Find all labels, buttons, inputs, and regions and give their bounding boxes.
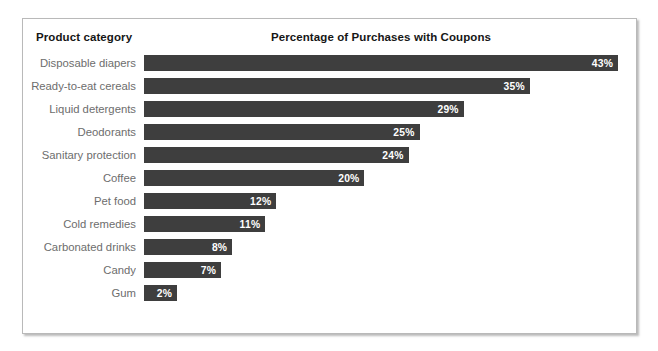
- bar[interactable]: 12%: [144, 193, 276, 209]
- bar-value-label: 12%: [250, 196, 276, 207]
- bar-value-label: 20%: [338, 173, 364, 184]
- bar[interactable]: 43%: [144, 55, 618, 71]
- bar-value-label: 11%: [240, 219, 266, 230]
- bar-track: 8%: [144, 239, 636, 255]
- category-label: Coffee: [23, 170, 136, 186]
- category-label: Ready-to-eat cereals: [23, 78, 136, 94]
- bar-value-label: 29%: [437, 104, 463, 115]
- bar-track: 2%: [144, 285, 636, 301]
- category-label: Carbonated drinks: [23, 239, 136, 255]
- bar-track: 29%: [144, 101, 636, 117]
- bar[interactable]: 8%: [144, 239, 232, 255]
- bar-row: Cold remedies11%: [23, 216, 636, 239]
- bar-value-label: 35%: [504, 81, 530, 92]
- bar-row: Coffee20%: [23, 170, 636, 193]
- bar-track: 25%: [144, 124, 636, 140]
- bar[interactable]: 29%: [144, 101, 464, 117]
- bar-row: Sanitary protection24%: [23, 147, 636, 170]
- bar-value-label: 2%: [157, 288, 177, 299]
- bar[interactable]: 35%: [144, 78, 530, 94]
- category-label: Cold remedies: [23, 216, 136, 232]
- bar[interactable]: 20%: [144, 170, 364, 186]
- bar-track: 35%: [144, 78, 636, 94]
- bar-chart-rows: Disposable diapers43%Ready-to-eat cereal…: [23, 55, 636, 308]
- bar-track: 43%: [144, 55, 636, 71]
- bar-row: Gum2%: [23, 285, 636, 308]
- bar[interactable]: 2%: [144, 285, 177, 301]
- bar[interactable]: 24%: [144, 147, 409, 163]
- category-label: Pet food: [23, 193, 136, 209]
- bar-track: 12%: [144, 193, 636, 209]
- bar-value-label: 24%: [382, 150, 408, 161]
- category-label: Deodorants: [23, 124, 136, 140]
- bar[interactable]: 11%: [144, 216, 265, 232]
- bar-row: Disposable diapers43%: [23, 55, 636, 78]
- bar-value-label: 25%: [393, 127, 419, 138]
- bar-row: Candy7%: [23, 262, 636, 285]
- category-label: Gum: [23, 285, 136, 301]
- bar-track: 7%: [144, 262, 636, 278]
- bar-value-label: 8%: [212, 242, 232, 253]
- chart-title: Percentage of Purchases with Coupons: [144, 31, 618, 43]
- bar-value-label: 43%: [592, 58, 618, 69]
- chart-header-row: Product category Percentage of Purchases…: [23, 31, 636, 53]
- category-label: Liquid detergents: [23, 101, 136, 117]
- bar-track: 20%: [144, 170, 636, 186]
- bar-row: Pet food12%: [23, 193, 636, 216]
- bar-row: Carbonated drinks8%: [23, 239, 636, 262]
- category-label: Sanitary protection: [23, 147, 136, 163]
- bar-row: Ready-to-eat cereals35%: [23, 78, 636, 101]
- category-label: Disposable diapers: [23, 55, 136, 71]
- bar-track: 24%: [144, 147, 636, 163]
- bar[interactable]: 7%: [144, 262, 221, 278]
- bar-value-label: 7%: [201, 265, 221, 276]
- column-header-product-category: Product category: [36, 31, 132, 43]
- bar[interactable]: 25%: [144, 124, 420, 140]
- chart-panel: Product category Percentage of Purchases…: [22, 18, 637, 334]
- category-label: Candy: [23, 262, 136, 278]
- chart-inner: Product category Percentage of Purchases…: [23, 19, 636, 333]
- bar-row: Liquid detergents29%: [23, 101, 636, 124]
- bar-track: 11%: [144, 216, 636, 232]
- bar-row: Deodorants25%: [23, 124, 636, 147]
